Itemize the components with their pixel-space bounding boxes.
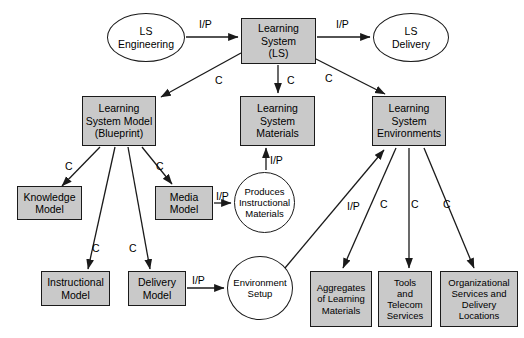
node-produces_instructional_materials[interactable]: Produces Instructional Materials [234, 172, 295, 233]
node-label: Learning System Materials [254, 102, 301, 139]
edge-label-e12: I/P [192, 274, 205, 286]
edge-label-e4: C [287, 74, 295, 86]
edge-label-e1: I/P [199, 18, 212, 30]
node-label: Learning System Environments [375, 102, 443, 139]
node-aggregates_of_learning_materials[interactable]: Aggregates of Learning Materials [310, 271, 372, 327]
node-label: Learning System (LS) [256, 22, 301, 59]
edge-label-e7: C [92, 242, 100, 254]
node-label: Aggregates of Learning Materials [315, 282, 368, 316]
node-label: Produces Instructional Materials [237, 186, 292, 220]
node-label: Instructional Model [45, 276, 106, 301]
node-instructional_model[interactable]: Instructional Model [41, 271, 110, 306]
edge-label-e14: C [380, 198, 388, 210]
edge-label-e5: C [325, 72, 333, 84]
node-label: Environment Setup [231, 277, 288, 299]
node-ls_model_blueprint[interactable]: Learning System Model (Blueprint) [82, 96, 156, 146]
node-label: Learning System Model (Blueprint) [84, 102, 155, 139]
node-label: Organizational Services and Delivery Loc… [446, 277, 511, 322]
diagram-edge [161, 53, 241, 97]
node-environment_setup[interactable]: Environment Setup [227, 256, 293, 320]
diagram-edge [285, 150, 384, 268]
node-label: LS Engineering [116, 25, 176, 50]
node-label: Tools and Telecom Services [385, 277, 425, 322]
edge-label-e6: C [65, 160, 73, 172]
edge-label-e3: C [215, 74, 223, 86]
edge-label-e8: C [129, 242, 137, 254]
node-label: Media Model [168, 191, 201, 216]
node-learning_system[interactable]: Learning System (LS) [241, 18, 316, 64]
edge-label-e11: I/P [270, 154, 283, 166]
node-label: Delivery Model [136, 276, 178, 301]
node-ls_engineering[interactable]: LS Engineering [107, 13, 185, 62]
node-ls_environments[interactable]: Learning System Environments [372, 96, 446, 146]
node-knowledge_model[interactable]: Knowledge Model [17, 186, 82, 220]
edge-label-e16: C [443, 198, 451, 210]
node-ls_materials[interactable]: Learning System Materials [240, 96, 315, 146]
node-tools_and_telecom_services[interactable]: Tools and Telecom Services [378, 271, 432, 327]
edge-label-e2: I/P [336, 18, 349, 30]
node-ls_delivery[interactable]: LS Delivery [373, 13, 449, 62]
edge-label-e10: I/P [216, 190, 229, 202]
diagram-canvas: LS EngineeringLearning System (LS)LS Del… [0, 0, 524, 338]
node-organizational_services_and_delivery_locations[interactable]: Organizational Services and Delivery Loc… [440, 271, 518, 327]
node-media_model[interactable]: Media Model [155, 186, 213, 220]
node-label: Knowledge Model [22, 191, 78, 216]
node-label: LS Delivery [390, 25, 432, 50]
node-delivery_model[interactable]: Delivery Model [128, 271, 186, 306]
edge-label-e13: I/P [347, 200, 360, 212]
edge-label-e9: C [156, 160, 164, 172]
edge-label-e15: C [411, 198, 419, 210]
